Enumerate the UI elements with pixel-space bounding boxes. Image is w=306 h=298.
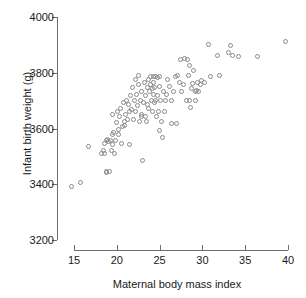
- data-point: [154, 114, 159, 119]
- data-point: [110, 112, 115, 117]
- data-point: [175, 73, 180, 78]
- data-point: [113, 138, 118, 143]
- x-axis-title: Maternal body mass index: [57, 279, 297, 290]
- data-point: [181, 82, 186, 87]
- data-point: [171, 89, 176, 94]
- data-point: [174, 121, 179, 126]
- data-point: [156, 109, 161, 114]
- data-point: [217, 73, 222, 78]
- data-point: [283, 39, 288, 44]
- scatter-plot-figure: 32003400360038004000152025303540 Infant …: [0, 0, 306, 298]
- data-point: [143, 93, 148, 98]
- data-point: [193, 98, 198, 103]
- data-point: [69, 184, 74, 189]
- data-point: [151, 80, 156, 85]
- data-point: [215, 53, 220, 58]
- data-point: [137, 119, 142, 124]
- data-point: [118, 106, 123, 111]
- data-point: [187, 98, 192, 103]
- data-point: [169, 98, 174, 103]
- data-point: [116, 132, 121, 137]
- data-points-layer: [0, 0, 306, 298]
- data-point: [208, 74, 213, 79]
- data-point: [185, 57, 190, 62]
- data-point: [114, 120, 119, 125]
- data-point: [165, 77, 170, 82]
- data-point: [86, 144, 91, 149]
- data-point: [163, 98, 168, 103]
- data-point: [206, 42, 211, 47]
- data-point: [164, 92, 169, 97]
- data-point: [144, 119, 149, 124]
- data-point: [140, 158, 145, 163]
- data-point: [255, 54, 260, 59]
- data-point: [135, 103, 140, 108]
- data-point: [133, 109, 138, 114]
- data-point: [230, 53, 235, 58]
- data-point: [102, 151, 107, 156]
- data-point: [236, 54, 241, 59]
- data-point: [131, 117, 136, 122]
- data-point: [188, 105, 193, 110]
- data-point: [191, 68, 196, 73]
- data-point: [187, 63, 192, 68]
- data-point: [157, 84, 162, 89]
- data-point: [78, 180, 83, 185]
- data-point: [119, 141, 124, 146]
- data-point: [136, 82, 141, 87]
- data-point: [159, 119, 164, 124]
- data-point: [107, 169, 112, 174]
- data-point: [130, 85, 135, 90]
- data-point: [117, 114, 122, 119]
- data-point: [136, 73, 141, 78]
- data-point: [157, 74, 162, 79]
- data-point: [157, 128, 162, 133]
- data-point: [167, 84, 172, 89]
- data-point: [122, 123, 127, 128]
- data-point: [150, 109, 155, 114]
- data-point: [228, 43, 233, 48]
- data-point: [112, 151, 117, 156]
- data-point: [162, 109, 167, 114]
- data-point: [186, 73, 191, 78]
- data-point: [169, 121, 174, 126]
- data-point: [202, 80, 207, 85]
- data-point: [127, 142, 132, 147]
- data-point: [126, 102, 131, 107]
- data-point: [196, 89, 201, 94]
- y-axis-title: Infant birth weight (g): [22, 39, 33, 209]
- data-point: [160, 135, 165, 140]
- data-point: [125, 117, 130, 122]
- data-point: [132, 98, 137, 103]
- data-point: [179, 89, 184, 94]
